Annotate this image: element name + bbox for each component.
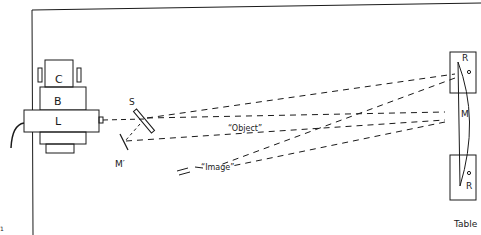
object-beam-center: [147, 112, 445, 118]
laser-beam: [103, 119, 145, 120]
optical-diagram: C B L S M′ “Object” “Image” M R R Table …: [0, 0, 481, 235]
label-small-mirror: M′: [115, 160, 125, 169]
label-object: “Object”: [228, 125, 262, 133]
laser-lower-block: [40, 132, 86, 144]
object-beam-top: [147, 74, 455, 118]
split-beam: [126, 124, 140, 140]
base-block: [40, 87, 86, 110]
label-main-mirror: M: [461, 110, 469, 119]
label-support-top: R: [462, 54, 468, 63]
camera-clip-left: [38, 68, 42, 82]
label-support-bottom: R: [466, 182, 472, 191]
label-laser: L: [55, 116, 61, 127]
laser-foot: [46, 144, 74, 153]
main-mirror-back: [458, 62, 460, 186]
power-cable: [11, 123, 24, 148]
label-splitter: S: [129, 98, 135, 107]
image-stub-2: [179, 172, 190, 175]
support-bottom-screw: [467, 171, 470, 174]
label-corner-mark: 1: [0, 226, 4, 232]
label-table: Table: [454, 220, 477, 229]
label-image: “Image”: [201, 164, 234, 172]
reference-beam: [126, 120, 445, 141]
diagram-canvas: [0, 0, 481, 235]
image-ray-center: [232, 122, 445, 166]
label-camera: C: [55, 74, 63, 85]
support-top-screw: [467, 70, 470, 73]
laser-body: [24, 110, 99, 132]
image-stub-1: [177, 168, 188, 171]
label-base: B: [54, 96, 62, 107]
beam-splitter: [133, 109, 154, 133]
support-bottom: [450, 155, 476, 200]
camera-clip-right: [77, 68, 81, 82]
small-mirror: [120, 134, 128, 150]
laser-aperture: [99, 117, 103, 123]
